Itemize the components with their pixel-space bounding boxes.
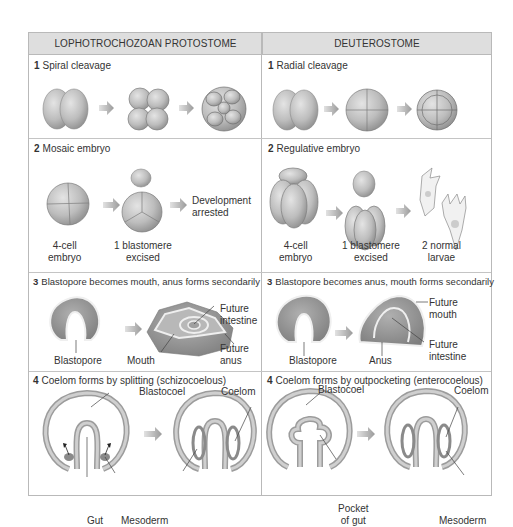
label-future-intestine: Future intestine bbox=[220, 303, 257, 327]
label-blastocoel-right: Blastocoel bbox=[318, 384, 364, 396]
spiral-cleavage-illustration bbox=[29, 33, 261, 138]
radial-cleavage-illustration bbox=[262, 33, 491, 138]
label-blastomere-excised-right: 1 blastomere excised bbox=[342, 240, 400, 264]
comparison-table: LOPHOTROCHOZOAN PROTOSTOME DEUTEROSTOME … bbox=[28, 32, 492, 496]
label-coelom-right: Coelom bbox=[454, 385, 488, 397]
label-mesoderm: Mesoderm bbox=[121, 515, 168, 527]
label-future-anus: Future anus bbox=[220, 343, 249, 367]
label-blastopore-right: Blastopore bbox=[289, 355, 337, 367]
label-mesoderm-right: Mesoderm bbox=[439, 515, 486, 527]
label-future-intestine-right: Future intestine bbox=[429, 339, 466, 363]
label-mouth: Mouth bbox=[127, 355, 155, 367]
label-pocket-of-gut: Pocket of gut bbox=[338, 503, 369, 527]
label-4-cell-embryo-right: 4-cell embryo bbox=[279, 240, 312, 264]
label-blastopore: Blastopore bbox=[54, 355, 102, 367]
label-4-cell-embryo: 4-cell embryo bbox=[48, 240, 81, 264]
label-2-normal-larvae: 2 normal larvae bbox=[422, 240, 461, 264]
label-gut: Gut bbox=[87, 515, 103, 527]
label-blastomere-excised: 1 blastomere excised bbox=[114, 240, 172, 264]
label-blastocoel: Blastocoel bbox=[139, 386, 185, 398]
label-development-arrested: Development arrested bbox=[192, 195, 251, 219]
label-anus: Anus bbox=[369, 355, 392, 367]
label-coelom: Coelom bbox=[221, 386, 255, 398]
label-future-mouth: Future mouth bbox=[429, 297, 458, 321]
